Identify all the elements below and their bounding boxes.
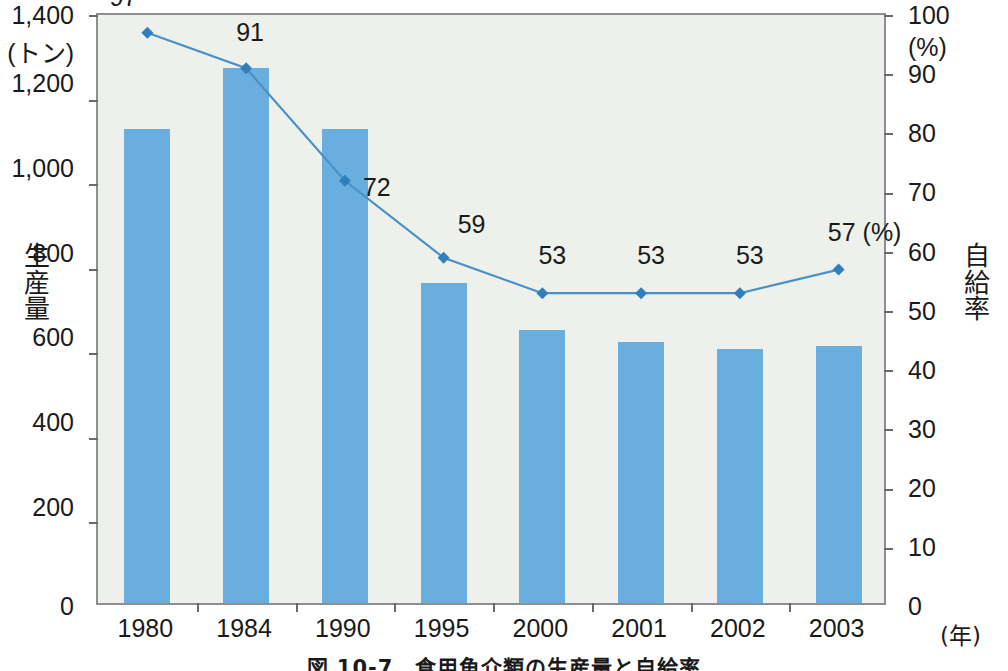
left-axis-unit: (トン) <box>0 33 74 69</box>
x-axis-label-1980: 1980 <box>90 614 200 643</box>
line-marker-2001 <box>635 287 647 299</box>
left-axis-tick-1200: 1,200 <box>0 69 74 98</box>
right-axis-title-char-2: 給 <box>962 270 992 297</box>
left-tick-mark-1,000 <box>89 184 98 186</box>
left-tick-mark-200 <box>89 522 98 524</box>
right-axis-unit: (%) <box>908 33 947 62</box>
x-axis-label-1995: 1995 <box>387 614 497 643</box>
right-axis-tick-0: 0 <box>908 592 922 621</box>
left-tick-mark-600 <box>89 353 98 355</box>
data-label-1990: 72 <box>363 172 391 201</box>
left-tick-mark-1,400 <box>89 15 98 17</box>
x-axis-label-2003: 2003 <box>782 614 892 643</box>
line-marker-2002 <box>734 287 746 299</box>
right-axis-title-char-3: 率 <box>962 296 992 323</box>
data-label-1980: 97 <box>109 0 137 11</box>
data-label-1984: 91 <box>236 18 264 47</box>
left-axis-title-char-2: 産 <box>22 270 52 297</box>
left-tick-mark-400 <box>89 438 98 440</box>
data-label-2002: 53 <box>736 241 764 270</box>
left-axis-tick-1400: 1,400 <box>0 1 74 30</box>
right-axis-tick-20: 20 <box>908 474 936 503</box>
line-path <box>147 33 838 293</box>
right-axis-tick-100: 100 <box>908 1 950 30</box>
x-axis-label-2002: 2002 <box>683 614 793 643</box>
right-axis-tick-50: 50 <box>908 297 936 326</box>
right-axis-tick-90: 90 <box>908 60 936 89</box>
left-axis-tick-0: 0 <box>0 592 74 621</box>
plot-area <box>96 13 886 605</box>
x-axis-label-1984: 1984 <box>189 614 299 643</box>
right-axis-title: 自 給 率 <box>962 243 992 323</box>
left-tick-mark-1,200 <box>89 100 98 102</box>
data-label-2003: 57 (%) <box>828 217 902 246</box>
right-axis-tick-60: 60 <box>908 238 936 267</box>
left-axis-title: 生 産 量 <box>22 243 52 323</box>
left-axis-tick-600: 600 <box>0 323 74 352</box>
left-axis-tick-200: 200 <box>0 493 74 522</box>
line-marker-2000 <box>536 287 548 299</box>
right-axis-tick-80: 80 <box>908 119 936 148</box>
left-tick-mark-800 <box>89 269 98 271</box>
right-axis: 100 (%) 90 80 70 60 50 40 30 20 10 0 <box>886 0 1008 671</box>
x-axis-label-2000: 2000 <box>485 614 595 643</box>
right-axis-title-char-1: 自 <box>962 243 992 270</box>
data-label-2000: 53 <box>538 241 566 270</box>
line-marker-2003 <box>833 264 845 276</box>
x-axis-label-1990: 1990 <box>288 614 398 643</box>
left-axis-tick-400: 400 <box>0 408 74 437</box>
right-axis-tick-30: 30 <box>908 415 936 444</box>
plot-inner <box>98 15 884 603</box>
right-axis-tick-40: 40 <box>908 356 936 385</box>
line-series-self-sufficiency <box>98 15 888 607</box>
figure-caption: 図 10-7 食用魚介類の生産量と自給率 <box>0 651 1008 671</box>
data-label-1995: 59 <box>458 209 486 238</box>
right-axis-tick-70: 70 <box>908 178 936 207</box>
x-axis-unit: (年) <box>940 617 981 651</box>
left-axis-tick-1000: 1,000 <box>0 154 74 183</box>
line-marker-1980 <box>141 27 153 39</box>
left-axis-title-char-1: 生 <box>22 243 52 270</box>
figure-container: 1,400 (トン) 1,200 1,000 800 600 400 200 0… <box>0 0 1008 671</box>
data-label-2001: 53 <box>637 241 665 270</box>
left-axis-title-char-3: 量 <box>22 296 52 323</box>
right-axis-tick-10: 10 <box>908 533 936 562</box>
x-axis-label-2001: 2001 <box>584 614 694 643</box>
left-axis: 1,400 (トン) 1,200 1,000 800 600 400 200 0 <box>0 0 96 671</box>
